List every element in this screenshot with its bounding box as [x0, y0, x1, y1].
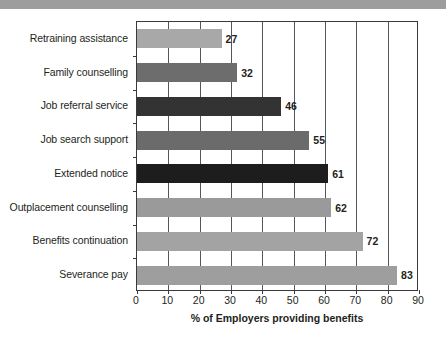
- bar: 55: [137, 131, 309, 150]
- bar: 27: [137, 29, 222, 48]
- bar-value-label: 62: [335, 202, 347, 213]
- y-tick: [133, 258, 137, 259]
- bar-row: 46: [137, 90, 417, 124]
- bar-row: 62: [137, 191, 417, 225]
- y-tick: [133, 56, 137, 57]
- top-decorative-band: [0, 0, 446, 9]
- x-axis-label-10: 10: [161, 295, 173, 306]
- x-axis-label-90: 90: [412, 295, 424, 306]
- x-axis-title: % of Employers providing benefits: [136, 312, 418, 324]
- y-tick: [133, 225, 137, 226]
- y-tick: [133, 157, 137, 158]
- category-label: Retraining assistance: [30, 21, 128, 55]
- bar-row: 55: [137, 123, 417, 157]
- bar: 62: [137, 198, 331, 217]
- category-label: Family counselling: [43, 55, 128, 89]
- x-axis-label-80: 80: [381, 295, 393, 306]
- bar: 46: [137, 97, 281, 116]
- bar-row: 83: [137, 258, 417, 292]
- category-label: Extended notice: [54, 156, 128, 190]
- bar-value-label: 72: [367, 236, 379, 247]
- bar: 61: [137, 164, 328, 183]
- bar-row: 72: [137, 225, 417, 259]
- bars-layer: 2732465561627283: [137, 22, 417, 290]
- category-label: Severance pay: [59, 257, 128, 291]
- bar-value-label: 32: [241, 67, 253, 78]
- bar: 72: [137, 232, 363, 251]
- x-axis-label-40: 40: [255, 295, 267, 306]
- y-tick: [133, 123, 137, 124]
- category-label: Job search support: [40, 122, 128, 156]
- bar: 83: [137, 266, 397, 285]
- x-axis-label-70: 70: [349, 295, 361, 306]
- plot-area: 2732465561627283: [136, 21, 418, 291]
- bar-value-label: 46: [285, 101, 297, 112]
- bar-value-label: 27: [226, 34, 238, 45]
- bar: 32: [137, 63, 237, 82]
- bar-chart-figure: Retraining assistanceFamily counsellingJ…: [0, 9, 446, 338]
- category-label: Job referral service: [41, 89, 128, 123]
- bar-value-label: 55: [313, 135, 325, 146]
- bar-row: 61: [137, 157, 417, 191]
- x-axis-label-30: 30: [224, 295, 236, 306]
- bar-value-label: 61: [332, 169, 344, 180]
- value-axis-labels: 0102030405060708090: [136, 295, 418, 309]
- category-axis-labels: Retraining assistanceFamily counsellingJ…: [0, 21, 132, 291]
- category-label: Outplacement counselling: [10, 190, 128, 224]
- bar-row: 27: [137, 22, 417, 56]
- bar-value-label: 83: [401, 270, 413, 281]
- y-tick: [133, 90, 137, 91]
- x-axis-label-0: 0: [133, 295, 139, 306]
- bar-row: 32: [137, 56, 417, 90]
- category-label: Benefits continuation: [33, 224, 128, 258]
- x-axis-label-60: 60: [318, 295, 330, 306]
- x-axis-label-20: 20: [193, 295, 205, 306]
- x-axis-label-50: 50: [287, 295, 299, 306]
- y-tick: [133, 191, 137, 192]
